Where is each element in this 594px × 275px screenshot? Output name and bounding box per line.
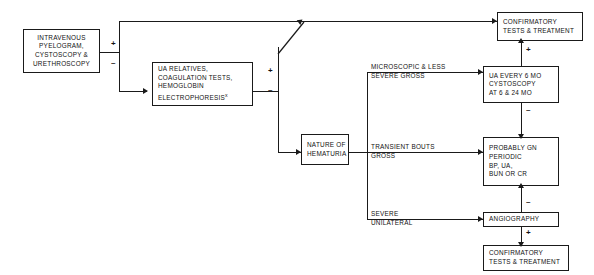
sign-plus-ua-relatives: +	[268, 67, 273, 75]
footnote-marker-icon: x	[225, 92, 228, 98]
box-line: BUN OR CR	[489, 170, 553, 179]
box-ua-relatives[interactable]: UA RELATIVES, COAGULATION TESTS, HEMOGLO…	[152, 62, 253, 106]
sign-plus-ivp: +	[111, 40, 116, 48]
sign-minus-angiography: –	[526, 198, 530, 206]
box-line: CONFIRMATORY	[503, 18, 577, 27]
connector-ua-out	[253, 91, 278, 92]
box-line: BP, UA,	[489, 162, 553, 171]
box-line: HEMATURIA	[307, 150, 343, 159]
sign-minus-ivp: –	[111, 59, 115, 67]
box-ua-every-6-mo[interactable]: UA EVERY 6 MO CYSTOSCOPY AT 6 & 24 MO	[483, 66, 559, 103]
box-line: CYSTOSCOPY &	[29, 51, 94, 60]
label-transient-bouts-gross: TRANSIENT BOUTS GROSS	[371, 143, 435, 161]
connector-ivp-branch-vertical	[119, 21, 120, 91]
box-line: CYSTOSCOPY	[489, 80, 553, 89]
label-line: TRANSIENT BOUTS	[371, 143, 435, 152]
label-microscopic-less-severe-gross: MICROSCOPIC & LESS SEVERE GROSS	[371, 63, 445, 81]
box-line: PROBABLY GN	[489, 144, 553, 153]
box-line: ANGIOGRAPHY	[489, 215, 553, 224]
label-line: SEVERE GROSS	[371, 72, 445, 81]
connector-angiography-minus-up	[521, 186, 522, 212]
label-line: MICROSCOPIC & LESS	[371, 63, 445, 72]
arrow-followup-into-probably-gn	[518, 134, 524, 139]
box-probably-gn[interactable]: PROBABLY GN PERIODIC BP, UA, BUN OR CR	[483, 137, 559, 186]
box-line: PERIODIC	[489, 153, 553, 162]
connector-followup-plus-up	[521, 41, 522, 66]
label-line: UNILATERAL	[371, 219, 412, 228]
connector-ua-plus-diagonal	[270, 14, 314, 56]
arrow-into-confirmatory-top	[492, 18, 497, 24]
arrow-followup-into-confirmatory-top	[518, 38, 524, 43]
connector-followup-minus-down	[521, 103, 522, 137]
sign-minus-ua-relatives: –	[268, 86, 272, 94]
arrow-angiography-into-probably-gn	[518, 183, 524, 188]
arrow-into-probably-gn	[478, 149, 483, 155]
box-line-with-superscript: ELECTROPHORESISx	[158, 91, 247, 103]
box-angiography[interactable]: ANGIOGRAPHY	[483, 212, 559, 227]
box-line: COAGULATION TESTS,	[158, 74, 247, 83]
box-confirmatory-tests-top[interactable]: CONFIRMATORY TESTS & TREATMENT	[497, 12, 583, 41]
arrow-into-ua-every-6-mo	[478, 69, 483, 75]
connector-nature-out	[349, 152, 367, 153]
box-nature-of-hematuria[interactable]: NATURE OF HEMATURIA	[301, 134, 349, 165]
sign-minus-followup: –	[526, 106, 530, 114]
sign-plus-angiography: +	[526, 229, 531, 237]
box-line: AT 6 & 24 MO	[489, 89, 553, 98]
box-line: URETHROSCOPY	[29, 60, 94, 69]
arrow-angiography-into-confirmatory-bottom	[518, 242, 524, 247]
arrow-into-nature-of-hematuria	[296, 149, 301, 155]
connector-ivp-out	[100, 52, 119, 53]
box-confirmatory-tests-bottom[interactable]: CONFIRMATORY TESTS & TREATMENT	[483, 245, 569, 271]
box-line: TESTS & TREATMENT	[503, 27, 577, 36]
connector-ua-branch-vertical	[278, 47, 279, 152]
box-line: TESTS & TREATMENT	[489, 258, 563, 267]
box-line: PYELOGRAM,	[29, 42, 94, 51]
box-line: CONFIRMATORY	[489, 249, 563, 258]
box-line: INTRAVENOUS	[29, 34, 94, 43]
flowchart-canvas: INTRAVENOUS PYELOGRAM, CYSTOSCOPY & URET…	[0, 0, 594, 275]
label-severe-unilateral: SEVERE UNILATERAL	[371, 210, 412, 228]
box-line: UA RELATIVES,	[158, 65, 247, 74]
box-line: NATURE OF	[307, 141, 343, 150]
box-line: HEMOGLOBIN	[158, 82, 247, 91]
box-line: UA EVERY 6 MO	[489, 72, 553, 81]
connector-distribution-spine	[367, 72, 368, 219]
arrow-into-ua-relatives	[143, 88, 148, 94]
box-line-text: ELECTROPHORESIS	[158, 94, 225, 101]
label-line: SEVERE	[371, 210, 412, 219]
label-line: GROSS	[371, 152, 435, 161]
box-intravenous-pyelogram[interactable]: INTRAVENOUS PYELOGRAM, CYSTOSCOPY & URET…	[23, 29, 100, 73]
sign-plus-followup: +	[526, 46, 531, 54]
arrow-into-angiography	[478, 216, 483, 222]
